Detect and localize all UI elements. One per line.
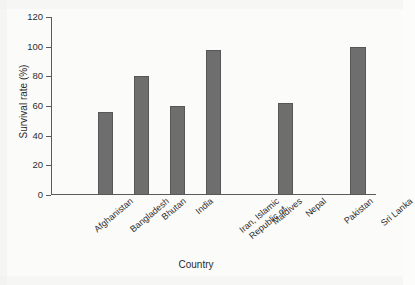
bar	[98, 112, 113, 195]
y-axis-tick-label: 120	[0, 12, 43, 21]
x-axis-tick-label: Nepal	[303, 196, 328, 219]
y-axis-title: Survival rate (%)	[18, 32, 29, 172]
bar	[134, 76, 149, 195]
bar	[170, 106, 185, 195]
x-axis-tick-label: Afghanistan	[92, 196, 135, 235]
bar	[350, 47, 365, 195]
bar	[206, 50, 221, 195]
x-axis-title: Country	[131, 259, 261, 270]
x-axis-tick-label: India	[194, 196, 216, 217]
y-axis-tick-label: 0	[0, 190, 43, 199]
bar	[278, 103, 293, 195]
bar-series	[51, 17, 376, 195]
x-axis-tick-label: Pakistan	[342, 196, 375, 226]
x-axis-tick-labels: AfghanistanBangladeshBhutanIndiaIran, Is…	[51, 196, 376, 258]
